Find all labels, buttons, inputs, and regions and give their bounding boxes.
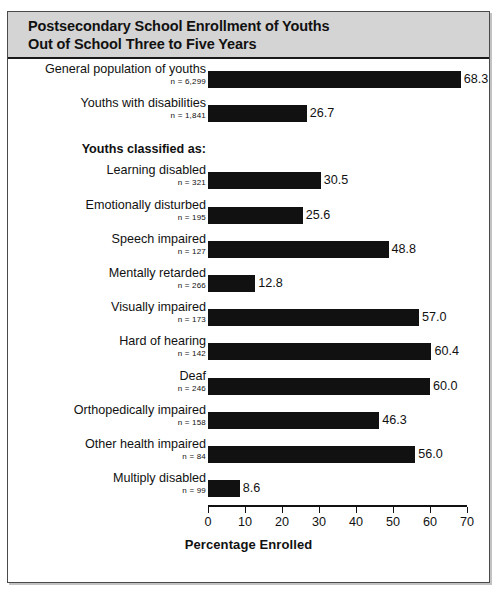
- category-name: Mentally retarded: [109, 266, 206, 281]
- bar: [208, 105, 307, 122]
- bar-row-label: Youths with disabilitiesn = 1,841: [80, 96, 206, 121]
- bar: [208, 241, 389, 258]
- bar: [208, 480, 240, 497]
- category-name: General population of youths: [45, 62, 206, 77]
- category-sample-size: n = 266: [109, 281, 206, 291]
- x-axis-title: Percentage Enrolled: [8, 537, 489, 552]
- bar-value-label: 60.0: [433, 379, 458, 393]
- bar: [208, 309, 419, 326]
- bar-value-label: 68.3: [464, 72, 489, 86]
- bar-row: General population of youthsn = 6,29968.…: [8, 71, 489, 88]
- bar-row-label: Multiply disabledn = 99: [113, 471, 206, 496]
- bar: [208, 412, 379, 429]
- bar-value-label: 8.6: [243, 481, 261, 495]
- x-axis-tick: [356, 507, 357, 513]
- x-axis-tick-label: 20: [267, 515, 297, 529]
- x-axis-tick: [319, 507, 320, 513]
- bar-row-label: Emotionally disturbedn = 195: [86, 198, 206, 223]
- category-group-header: Youths classified as:: [82, 142, 206, 156]
- category-sample-size: n = 321: [107, 178, 206, 188]
- chart-figure: Postsecondary School Enrollment of Youth…: [7, 11, 490, 583]
- bar-row-label: Orthopedically impairedn = 158: [74, 403, 206, 428]
- category-name: Emotionally disturbed: [86, 198, 206, 213]
- x-axis-tick-label: 30: [304, 515, 334, 529]
- bar-value-label: 12.8: [258, 276, 283, 290]
- x-axis-tick: [430, 507, 431, 513]
- category-sample-size: n = 6,299: [45, 77, 206, 87]
- bar-row: Deafn = 24660.0: [8, 378, 489, 395]
- bar-row: Emotionally disturbedn = 19525.6: [8, 207, 489, 224]
- x-axis-tick-label: 0: [193, 515, 223, 529]
- chart-plot-area: Youths classified as: Percentage Enrolle…: [8, 61, 489, 582]
- category-sample-size: n = 84: [85, 452, 206, 462]
- x-axis-tick-label: 10: [230, 515, 260, 529]
- bar-row-label: Speech impairedn = 127: [111, 232, 206, 257]
- x-axis-tick: [282, 507, 283, 513]
- bar: [208, 275, 255, 292]
- bar: [208, 446, 415, 463]
- category-name: Orthopedically impaired: [74, 403, 206, 418]
- bar-value-label: 30.5: [324, 173, 349, 187]
- bar-row: Orthopedically impairedn = 15846.3: [8, 412, 489, 429]
- category-sample-size: n = 1,841: [80, 111, 206, 121]
- bar: [208, 343, 431, 360]
- category-name: Speech impaired: [111, 232, 206, 247]
- x-axis-tick: [467, 507, 468, 513]
- bar: [208, 71, 461, 88]
- bar-row-label: Visually impairedn = 173: [111, 300, 206, 325]
- category-sample-size: n = 99: [113, 486, 206, 496]
- x-axis-tick: [393, 507, 394, 513]
- category-sample-size: n = 127: [111, 247, 206, 257]
- bar-row: Mentally retardedn = 26612.8: [8, 275, 489, 292]
- bar: [208, 378, 430, 395]
- bar-value-label: 26.7: [310, 106, 335, 120]
- bar-row: Multiply disabledn = 998.6: [8, 480, 489, 497]
- bar-row-label: Hard of hearingn = 142: [119, 334, 206, 359]
- category-sample-size: n = 158: [74, 418, 206, 428]
- x-axis-line: [208, 505, 467, 507]
- bar-row: Learning disabledn = 32130.5: [8, 172, 489, 189]
- category-sample-size: n = 246: [178, 384, 206, 394]
- bar-row-label: General population of youthsn = 6,299: [45, 62, 206, 87]
- bar-row-label: Deafn = 246: [178, 369, 206, 394]
- category-sample-size: n = 173: [111, 315, 206, 325]
- x-axis-tick-label: 70: [452, 515, 482, 529]
- bar-row: Speech impairedn = 12748.8: [8, 241, 489, 258]
- chart-title-banner: Postsecondary School Enrollment of Youth…: [8, 12, 489, 59]
- bar-row: Other health impairedn = 8456.0: [8, 446, 489, 463]
- bar-value-label: 60.4: [434, 344, 459, 358]
- x-axis-tick: [245, 507, 246, 513]
- x-axis-tick: [208, 507, 209, 513]
- bar-row: Hard of hearingn = 14260.4: [8, 343, 489, 360]
- category-name: Youths with disabilities: [80, 96, 206, 111]
- category-name: Other health impaired: [85, 437, 206, 452]
- bar-value-label: 46.3: [382, 413, 407, 427]
- bar-row-label: Learning disabledn = 321: [107, 163, 206, 188]
- bar-row: Visually impairedn = 17357.0: [8, 309, 489, 326]
- bar: [208, 207, 303, 224]
- chart-title-line-2: Out of School Three to Five Years: [28, 36, 257, 52]
- category-name: Multiply disabled: [113, 471, 206, 486]
- x-axis-tick-label: 60: [415, 515, 445, 529]
- x-axis-tick-label: 50: [378, 515, 408, 529]
- bar: [208, 172, 321, 189]
- bar-value-label: 57.0: [422, 310, 447, 324]
- bar-value-label: 25.6: [306, 208, 331, 222]
- category-sample-size: n = 142: [119, 349, 206, 359]
- bar-value-label: 56.0: [418, 447, 443, 461]
- bar-value-label: 48.8: [392, 242, 417, 256]
- category-name: Hard of hearing: [119, 334, 206, 349]
- category-name: Learning disabled: [107, 163, 206, 178]
- x-axis-tick-label: 40: [341, 515, 371, 529]
- category-name: Deaf: [178, 369, 206, 384]
- bar-row-label: Mentally retardedn = 266: [109, 266, 206, 291]
- category-name: Visually impaired: [111, 300, 206, 315]
- chart-title-line-1: Postsecondary School Enrollment of Youth…: [28, 18, 330, 34]
- category-sample-size: n = 195: [86, 213, 206, 223]
- bar-row-label: Other health impairedn = 84: [85, 437, 206, 462]
- bar-row: Youths with disabilitiesn = 1,84126.7: [8, 105, 489, 122]
